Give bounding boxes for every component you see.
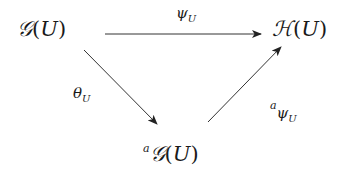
label-psi-u: ψU [176,6,196,24]
label-sub: U [188,13,196,24]
open-paren: ( [165,142,173,166]
label-main: ψ [176,4,188,22]
label-sub: U [82,93,90,104]
node-h-of-u: ℋ(U) [272,19,327,40]
node-arg: U [301,17,319,41]
node-symbol: 𝒢 [150,142,165,166]
close-paren: ) [58,17,66,41]
close-paren: ) [319,17,327,41]
label-sub: U [288,113,296,124]
node-arg: U [40,17,58,41]
label-a-psi-u: aψU [270,100,297,124]
node-arg: U [173,142,191,166]
arrow-theta [84,50,157,124]
close-paren: ) [190,142,198,166]
label-theta-u: θU [73,86,90,104]
node-g-of-u: 𝒢(U) [17,19,66,40]
label-main: ψ [277,104,289,122]
label-main: θ [73,84,82,102]
node-symbol: 𝒢 [17,17,32,41]
open-paren: ( [32,17,40,41]
commutative-diagram: 𝒢(U) ℋ(U) a𝒢(U) ψU θU aψU [0,0,347,171]
open-paren: ( [293,17,301,41]
node-a-g-of-u: a𝒢(U) [143,143,199,165]
node-symbol: ℋ [272,17,293,41]
